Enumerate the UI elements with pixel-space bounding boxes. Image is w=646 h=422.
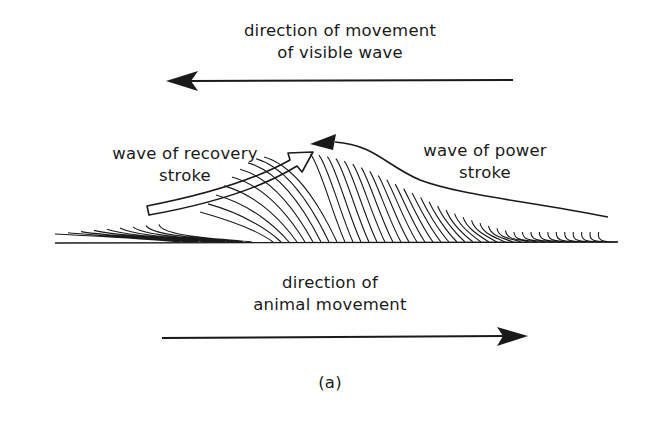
cilia-wave-icon (55, 154, 617, 242)
animal-movement-arrow-icon (162, 327, 528, 346)
metachronal-wave-diagram (0, 0, 646, 422)
visible-wave-arrow-icon (166, 71, 513, 91)
recovery-stroke-arrow-icon (147, 152, 313, 215)
baseline (55, 242, 618, 243)
